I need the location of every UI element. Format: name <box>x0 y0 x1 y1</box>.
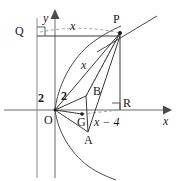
dot-p <box>118 31 122 35</box>
dot-origin <box>54 109 57 112</box>
label-length-horizontal: x − 4 <box>94 116 119 128</box>
label-length-right-two: 2 <box>61 90 67 102</box>
label-point-q: Q <box>15 25 24 37</box>
label-length-bp: x <box>81 59 86 71</box>
label-point-p: P <box>113 13 120 25</box>
segment-a-to-b <box>86 96 88 132</box>
segment-o-to-g <box>55 110 82 114</box>
label-point-a: A <box>84 134 93 146</box>
right-angle-at-r <box>112 103 120 110</box>
right-angle-markers <box>37 27 120 110</box>
label-point-origin: O <box>44 114 53 126</box>
geometry-figure <box>0 0 176 181</box>
label-length-qp: x <box>70 20 75 32</box>
label-point-r: R <box>123 97 131 109</box>
label-length-left-two: 2 <box>38 92 44 104</box>
diagram-canvas: Q P O B A G R y x x x 2 2 x − 4 <box>0 0 176 181</box>
segment-o-to-b <box>55 96 86 110</box>
y-axis-arrowhead <box>51 9 60 19</box>
dashed-g-to-r <box>82 110 120 114</box>
label-point-g: G <box>77 116 86 128</box>
label-axis-y: y <box>43 12 48 24</box>
axes-group <box>4 9 172 178</box>
label-point-b: B <box>93 85 101 97</box>
label-axis-x: x <box>163 115 168 127</box>
